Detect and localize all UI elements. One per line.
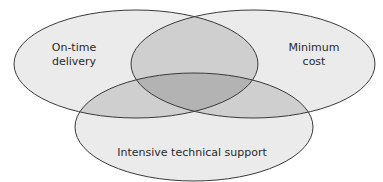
set-c-label-line-1: Intensive technical support [117,146,267,160]
set-a-label-line-1: On-time [42,41,106,55]
set-b-label-line-2: cost [282,55,346,69]
set-b-label-line-1: Minimum [282,41,346,55]
venn-diagram: On-time delivery Minimum cost Intensive … [0,0,383,182]
set-a-label: On-time delivery [42,41,106,69]
set-b-label: Minimum cost [282,41,346,69]
set-a-label-line-2: delivery [42,55,106,69]
set-c-label: Intensive technical support [117,146,267,160]
